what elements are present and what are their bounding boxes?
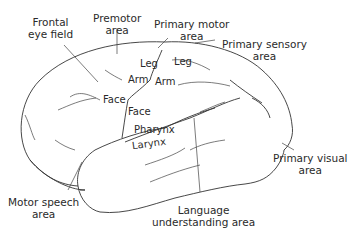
label-primary-sensory-area: Primary sensory area: [222, 38, 307, 62]
label-sensory-arm: Arm: [155, 76, 176, 88]
primary-visual-leader: [282, 143, 294, 150]
label-primary-motor-area: Primary motor area: [154, 18, 229, 42]
label-primary-visual-area: Primary visual area: [273, 152, 348, 176]
label-motor-face: Face: [103, 94, 126, 106]
label-pharynx: Pharynx: [134, 124, 175, 136]
label-motor-speech-area: Motor speech area: [8, 196, 79, 220]
label-sensory-face: Face: [128, 106, 151, 118]
label-frontal-eye-field: Frontal eye field: [28, 16, 73, 40]
label-premotor-area: Premotor area: [93, 12, 141, 36]
label-motor-arm: Arm: [128, 74, 149, 86]
label-language-understanding-area: Language understanding area: [152, 204, 255, 228]
label-sensory-leg: Leg: [174, 56, 192, 68]
language-understanding-leader: [194, 118, 200, 192]
label-motor-leg: Leg: [140, 58, 158, 70]
